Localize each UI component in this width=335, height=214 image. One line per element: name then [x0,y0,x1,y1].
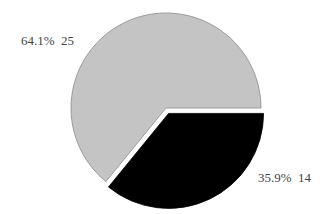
slice-label-black: 35.9% 14 [258,170,311,186]
slice-label-gray: 64.1% 25 [21,33,74,49]
